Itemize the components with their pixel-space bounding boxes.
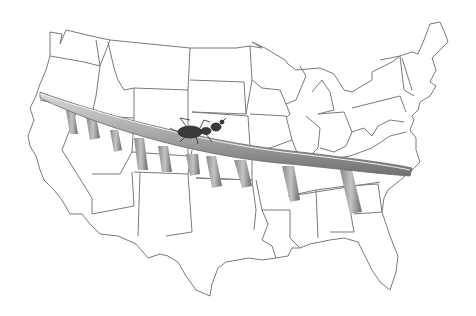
illustration: [0, 0, 476, 316]
us-map-outline: [28, 22, 448, 296]
